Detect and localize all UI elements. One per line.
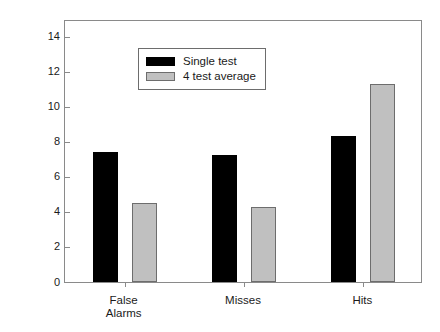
bar-chart: Proportion of population 02468101214 Sin… <box>0 0 440 332</box>
bar <box>132 203 157 282</box>
y-axis-tick-mark <box>65 247 70 248</box>
bar <box>93 152 118 282</box>
x-axis-category-label: Misses <box>178 294 308 307</box>
plot-area: 02468101214 Single test4 test average <box>64 20 422 283</box>
legend-item-label: 4 test average <box>183 71 256 83</box>
y-axis-tick-label: 4 <box>54 206 65 217</box>
legend-item: 4 test average <box>146 69 256 84</box>
y-axis-tick-label: 6 <box>54 171 65 182</box>
y-axis-tick-mark <box>65 212 70 213</box>
y-axis-tick-mark <box>65 72 70 73</box>
y-axis-tick-label: 0 <box>54 277 65 288</box>
y-axis-tick-label: 2 <box>54 241 65 252</box>
y-axis-tick-mark <box>65 107 70 108</box>
y-axis-tick-mark <box>65 37 70 38</box>
y-axis-tick-mark <box>65 142 70 143</box>
legend: Single test4 test average <box>138 48 266 90</box>
y-axis-tick-label: 14 <box>48 31 65 42</box>
y-axis-tick-label: 10 <box>48 101 65 112</box>
x-axis-tick-mark <box>125 282 126 287</box>
x-axis-tick-mark <box>363 282 364 287</box>
y-axis-tick-label: 8 <box>54 136 65 147</box>
legend-swatch-average <box>146 72 175 81</box>
legend-swatch-single <box>146 57 175 66</box>
bar <box>331 136 356 282</box>
bar <box>212 155 237 282</box>
y-axis-tick-mark <box>65 177 70 178</box>
x-axis-tick-mark <box>244 282 245 287</box>
y-axis-tick-mark <box>65 282 70 283</box>
x-axis-category-label: False Alarms <box>59 294 189 320</box>
bar <box>370 84 395 282</box>
legend-item: Single test <box>146 54 256 69</box>
y-axis-tick-label: 12 <box>48 66 65 77</box>
bar <box>251 207 276 282</box>
legend-item-label: Single test <box>183 56 237 68</box>
x-axis-category-label: Hits <box>297 294 427 307</box>
